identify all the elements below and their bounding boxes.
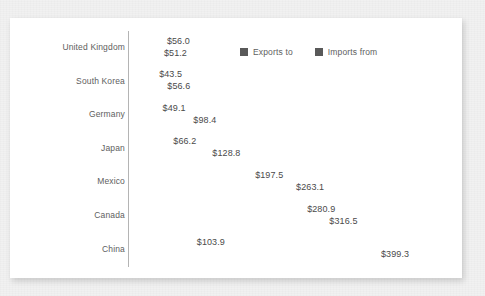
bar-imports[interactable]: $51.2 xyxy=(129,47,161,58)
bar-exports[interactable]: $56.0 xyxy=(129,35,164,46)
legend-entry[interactable]: Exports to xyxy=(240,47,293,57)
category-axis-label: United Kingdom xyxy=(15,42,125,52)
bar-imports[interactable]: $56.6 xyxy=(129,81,164,92)
bar-imports[interactable]: $316.5 xyxy=(129,215,326,226)
bar-group: Mexico$197.5$263.1 xyxy=(10,166,462,196)
bar-group: Germany$49.1$98.4 xyxy=(10,99,462,129)
bar-exports[interactable]: $49.1 xyxy=(129,102,160,113)
bar-value-label: $98.4 xyxy=(190,115,216,125)
bar-exports[interactable]: $280.9 xyxy=(129,203,304,214)
legend-swatch-imports-icon xyxy=(315,48,323,56)
category-axis-label: Germany xyxy=(15,109,125,119)
bar-group: China$103.9$399.3 xyxy=(10,234,462,264)
bar-group: Japan$66.2$128.8 xyxy=(10,133,462,163)
bar-value-label: $280.9 xyxy=(304,204,335,214)
bar-value-label: $399.3 xyxy=(378,249,409,259)
bar-value-label: $66.2 xyxy=(170,136,196,146)
bar-value-label: $197.5 xyxy=(252,170,283,180)
bar-imports[interactable]: $128.8 xyxy=(129,148,209,159)
category-axis-label: Canada xyxy=(15,210,125,220)
legend-entry[interactable]: Imports from xyxy=(315,47,378,57)
legend-label: Exports to xyxy=(253,47,293,57)
bar-value-label: $103.9 xyxy=(194,237,225,247)
bar-imports[interactable]: $399.3 xyxy=(129,249,378,260)
bar-value-label: $56.0 xyxy=(164,36,190,46)
category-axis-label: South Korea xyxy=(15,76,125,86)
bar-value-label: $43.5 xyxy=(156,69,182,79)
plot-area: United Kingdom$56.0$51.2South Korea$43.5… xyxy=(10,18,462,278)
bar-value-label: $51.2 xyxy=(161,48,187,58)
bar-exports[interactable]: $66.2 xyxy=(129,136,170,147)
bar-group: United Kingdom$56.0$51.2 xyxy=(10,32,462,62)
category-axis-label: Mexico xyxy=(15,176,125,186)
bar-value-label: $316.5 xyxy=(326,216,357,226)
bar-exports[interactable]: $197.5 xyxy=(129,169,252,180)
legend-label: Imports from xyxy=(328,47,378,57)
chart-legend: Exports toImports from xyxy=(240,47,377,57)
bar-imports[interactable]: $263.1 xyxy=(129,181,293,192)
chart-panel: United Kingdom$56.0$51.2South Korea$43.5… xyxy=(10,18,462,278)
bar-imports[interactable]: $98.4 xyxy=(129,114,190,125)
bar-exports[interactable]: $103.9 xyxy=(129,237,194,248)
bar-value-label: $49.1 xyxy=(160,103,186,113)
bar-exports[interactable]: $43.5 xyxy=(129,69,156,80)
legend-swatch-exports-icon xyxy=(240,48,248,56)
bar-group: South Korea$43.5$56.6 xyxy=(10,66,462,96)
bar-value-label: $128.8 xyxy=(209,148,240,158)
bar-group: Canada$280.9$316.5 xyxy=(10,200,462,230)
category-axis-label: Japan xyxy=(15,143,125,153)
category-axis-label: China xyxy=(15,244,125,254)
bar-value-label: $56.6 xyxy=(164,81,190,91)
bar-value-label: $263.1 xyxy=(293,182,324,192)
